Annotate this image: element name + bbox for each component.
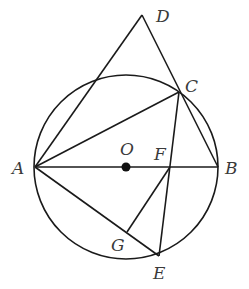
label-e: E (152, 263, 166, 283)
label-d: D (155, 6, 170, 26)
center-point-o (122, 163, 131, 172)
label-c: C (185, 76, 198, 96)
geometry-diagram: A B O C D E F G (0, 0, 249, 289)
label-g: G (111, 235, 125, 255)
label-o: O (120, 139, 134, 159)
label-b: B (224, 158, 238, 178)
label-f: F (153, 144, 167, 164)
label-a: A (10, 158, 24, 178)
segment-ce (159, 92, 179, 256)
